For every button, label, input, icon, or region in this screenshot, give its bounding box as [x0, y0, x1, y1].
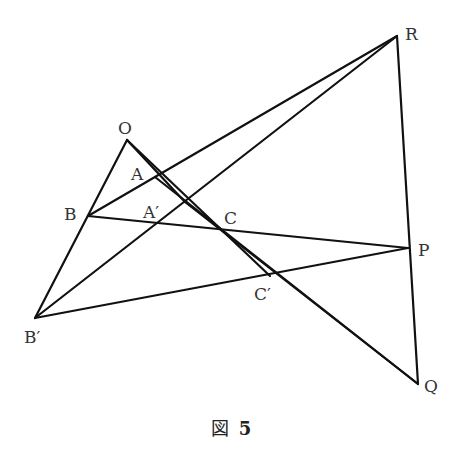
segment-B-P — [88, 216, 408, 248]
segment-A_prime-Q — [185, 202, 418, 384]
label-B: B — [64, 204, 77, 224]
label-A: A — [130, 164, 144, 184]
desargues-diagram: O A A′ B B′ C C′ P Q R — [0, 0, 462, 457]
label-C: C — [224, 208, 237, 228]
segment-B-R — [88, 36, 397, 216]
label-P: P — [418, 240, 429, 260]
label-R: R — [405, 24, 419, 44]
point-labels: O A A′ B B′ C C′ P Q R — [24, 24, 438, 396]
caption-prefix: 図 — [211, 418, 229, 439]
segment-B_prime-P — [35, 248, 408, 318]
figure-caption: 図5 — [0, 414, 462, 440]
label-C-prime: C′ — [254, 284, 271, 304]
label-O: O — [118, 118, 132, 138]
segment-O-B_prime — [35, 140, 127, 318]
label-A-prime: A′ — [142, 202, 159, 222]
segment-B_prime-R — [35, 36, 397, 318]
label-B-prime: B′ — [24, 327, 40, 347]
label-Q: Q — [424, 376, 438, 396]
segment-R-Q — [397, 36, 418, 384]
caption-number: 5 — [239, 418, 252, 439]
